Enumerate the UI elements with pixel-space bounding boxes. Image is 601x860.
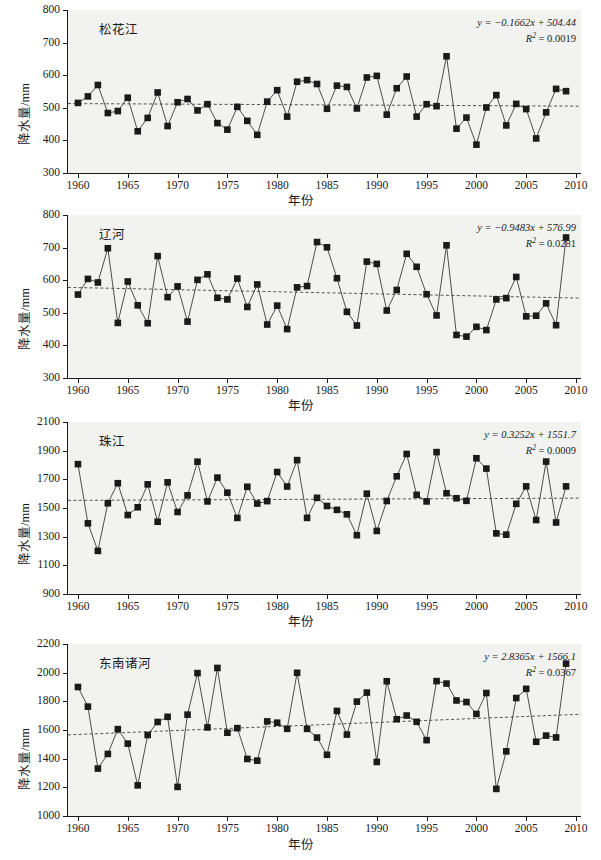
x-axis-tick <box>227 816 228 821</box>
chart-panel-liaohe: 降水量/mm 300400500600700800196019651970197… <box>0 205 601 410</box>
data-point-marker <box>393 85 400 92</box>
data-point-marker <box>194 277 201 284</box>
data-point-marker <box>473 711 480 718</box>
data-point-marker <box>513 695 520 702</box>
r2-value-1: = 0.0019 <box>539 33 576 44</box>
x-axis-tick <box>327 594 328 599</box>
data-point-marker <box>144 320 151 327</box>
chart-panel-zhujiang: 降水量/mm 900110013001500170019002100196019… <box>0 410 601 630</box>
y-axis-tick <box>63 451 68 452</box>
x-axis-tick <box>526 594 527 599</box>
series-line <box>78 452 566 551</box>
regression-equation-1: y = −0.1662x + 504.44 R2 = 0.0019 <box>477 16 576 46</box>
data-point-marker <box>244 304 251 311</box>
data-point-marker <box>433 678 440 685</box>
data-point-marker <box>543 732 550 739</box>
data-point-marker <box>533 135 540 142</box>
y-axis-label-3: 降水量/mm <box>14 503 33 565</box>
y-axis-tick <box>63 422 68 423</box>
x-axis-tick <box>178 173 179 178</box>
y-axis-tick <box>63 280 68 281</box>
data-point-marker <box>533 738 540 745</box>
x-axis-tick <box>128 594 129 599</box>
data-point-marker <box>364 689 371 696</box>
y-axis-tick <box>63 248 68 249</box>
data-point-marker <box>124 740 131 747</box>
data-point-marker <box>304 515 311 522</box>
data-point-marker <box>374 73 381 80</box>
data-point-marker <box>543 109 550 116</box>
x-axis-tick <box>277 378 278 383</box>
y-axis-tick <box>63 701 68 702</box>
data-point-marker <box>294 284 301 291</box>
y-axis-tick <box>63 75 68 76</box>
data-point-marker <box>234 515 241 522</box>
data-point-marker <box>194 670 201 677</box>
y-axis-tick <box>63 787 68 788</box>
x-axis-tick <box>526 378 527 383</box>
x-axis-tick <box>178 594 179 599</box>
data-point-marker <box>364 490 371 497</box>
data-point-marker <box>473 455 480 462</box>
x-axis-tick <box>576 816 577 821</box>
x-axis-tick-label: 1965 <box>116 823 139 835</box>
x-axis-tick-label: 1975 <box>216 823 239 835</box>
data-point-marker <box>184 492 191 499</box>
data-point-marker <box>284 113 291 120</box>
data-point-marker <box>164 294 171 301</box>
data-point-marker <box>433 449 440 456</box>
y-axis-tick-label: 700 <box>43 37 60 49</box>
data-point-marker <box>364 74 371 81</box>
data-point-marker <box>164 123 171 130</box>
data-point-marker <box>174 784 181 791</box>
y-axis-tick-label: 1800 <box>37 696 60 708</box>
y-axis-tick-label: 500 <box>43 307 60 319</box>
x-axis-tick <box>277 816 278 821</box>
data-point-marker <box>543 458 550 465</box>
data-point-marker <box>533 517 540 524</box>
data-point-marker <box>244 483 251 490</box>
data-point-marker <box>274 87 281 94</box>
data-point-marker <box>453 125 460 132</box>
y-axis-tick-label: 300 <box>43 372 60 384</box>
y-axis-tick-label: 2100 <box>37 416 60 428</box>
x-axis-tick <box>327 816 328 821</box>
data-point-marker <box>224 296 231 303</box>
data-point-marker <box>254 132 261 139</box>
data-point-marker <box>95 548 102 555</box>
x-axis-tick <box>377 594 378 599</box>
data-point-marker <box>115 726 122 733</box>
data-point-marker <box>403 712 410 719</box>
data-point-marker <box>423 291 430 298</box>
data-point-marker <box>493 530 500 537</box>
x-axis-tick <box>377 173 378 178</box>
data-point-marker <box>563 483 570 490</box>
data-point-marker <box>75 461 82 468</box>
r2-line-4: R2 = 0.0367 <box>484 664 576 680</box>
x-axis-tick <box>227 378 228 383</box>
y-axis-tick-label: 900 <box>43 588 60 600</box>
data-point-marker <box>274 719 281 726</box>
data-point-marker <box>204 498 211 505</box>
data-point-marker <box>294 78 301 85</box>
data-point-marker <box>334 275 341 282</box>
r2-line-3: R2 = 0.0009 <box>484 442 576 458</box>
x-axis-label-4: 年份 <box>0 834 601 853</box>
data-point-marker <box>214 474 221 481</box>
data-point-marker <box>423 498 430 505</box>
data-point-marker <box>344 309 351 316</box>
data-point-marker <box>124 278 131 285</box>
data-point-marker <box>264 321 271 328</box>
data-point-marker <box>324 503 331 510</box>
data-point-marker <box>164 479 171 486</box>
y-axis-tick-label: 1900 <box>37 445 60 457</box>
data-point-marker <box>115 320 122 327</box>
x-axis-tick <box>227 173 228 178</box>
data-point-marker <box>154 89 161 96</box>
equation-line-4: y = 2.8365x + 1566.1 <box>484 650 576 664</box>
y-axis-tick-label: 600 <box>43 69 60 81</box>
chart-title-4: 东南诸河 <box>99 653 151 672</box>
data-point-marker <box>194 107 201 114</box>
data-point-marker <box>513 501 520 508</box>
data-point-marker <box>453 332 460 339</box>
